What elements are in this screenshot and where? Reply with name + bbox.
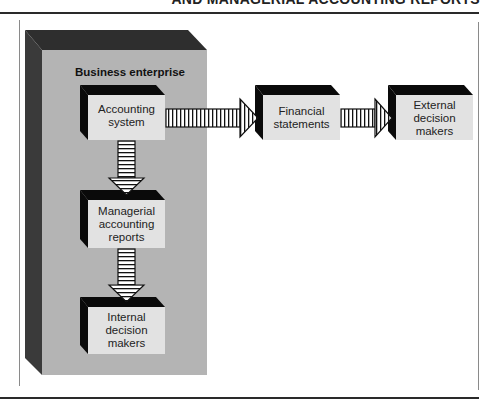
node-accounting-system: Accounting system bbox=[88, 103, 165, 129]
node-line: makers bbox=[88, 337, 165, 350]
node-line: decision bbox=[88, 324, 165, 337]
business-enterprise-label: Business enterprise bbox=[75, 66, 185, 78]
node-line: Financial bbox=[263, 105, 340, 118]
node-line: reports bbox=[88, 231, 165, 244]
node-line: system bbox=[88, 116, 165, 129]
node-line: decision bbox=[396, 112, 473, 125]
node-external-decision-makers: External decision makers bbox=[396, 99, 473, 138]
node-line: makers bbox=[396, 125, 473, 138]
node-internal-decision-makers: Internal decision makers bbox=[88, 311, 165, 350]
node-line: statements bbox=[263, 118, 340, 131]
flow-diagram bbox=[0, 0, 499, 409]
arrow-financial-to-external bbox=[341, 99, 392, 137]
node-line: Internal bbox=[88, 311, 165, 324]
node-line: Managerial bbox=[88, 205, 165, 218]
node-managerial-reports: Managerial accounting reports bbox=[88, 205, 165, 244]
node-financial-statements: Financial statements bbox=[263, 105, 340, 131]
node-line: External bbox=[396, 99, 473, 112]
node-line: Accounting bbox=[88, 103, 165, 116]
node-line: accounting bbox=[88, 218, 165, 231]
